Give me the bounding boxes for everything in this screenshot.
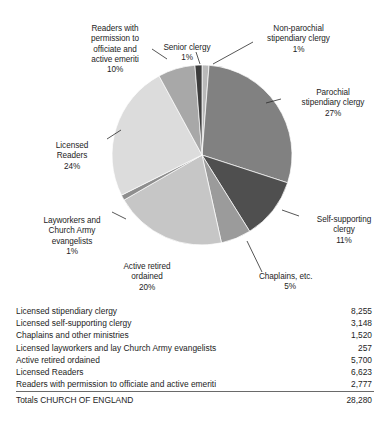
- pie-label-non-parochial: Non-parochial stipendiary clergy 1%: [251, 14, 346, 65]
- table-cell-value: 1,520: [331, 329, 374, 341]
- table-cell-value: 257: [331, 342, 374, 354]
- pie-label-layworkers-pct: 1%: [20, 247, 124, 257]
- pie-label-self-supporting: Self-supporting clergy 11%: [300, 205, 388, 256]
- pie-label-layworkers-name: Layworkers and Church Army evangelists: [43, 216, 100, 245]
- pie-label-licensed-readers-name: Licensed Readers: [56, 141, 88, 160]
- table-cell-label: Licensed self-supporting clergy: [16, 317, 331, 329]
- pie-label-non-parochial-pct: 1%: [251, 45, 346, 55]
- table-row: Licensed layworkers and lay Church Army …: [16, 342, 374, 354]
- table-totals-row: Totals CHURCH OF ENGLAND28,280: [16, 392, 374, 407]
- pie-label-parochial: Parochial stipendiary clergy 27%: [283, 78, 383, 129]
- table-row: Licensed Readers6,623: [16, 366, 374, 378]
- table-cell-value: 5,700: [331, 354, 374, 366]
- pie-label-readers-permission: Readers with permission to officiate and…: [72, 14, 158, 85]
- table-row: Licensed stipendiary clergy8,255: [16, 305, 374, 317]
- table-cell-label: Readers with permission to officiate and…: [16, 378, 331, 392]
- leader-line-self-supporting: [282, 210, 299, 216]
- pie-label-active-retired-name: Active retired ordained: [123, 262, 170, 281]
- pie-label-readers-permission-pct: 10%: [72, 65, 158, 75]
- pie-label-parochial-name: Parochial stipendiary clergy: [302, 88, 365, 107]
- data-table-body: Licensed stipendiary clergy8,255Licensed…: [16, 305, 374, 406]
- table-row: Readers with permission to officiate and…: [16, 378, 374, 392]
- pie-label-chaplains-pct: 5%: [259, 282, 321, 292]
- table-cell-label: Licensed stipendiary clergy: [16, 305, 331, 317]
- pie-label-senior-clergy-pct: 1%: [150, 53, 224, 63]
- table-row: Active retired ordained5,700: [16, 354, 374, 366]
- pie-label-readers-permission-name: Readers with permission to officiate and…: [91, 24, 139, 64]
- pie-label-licensed-readers-pct: 24%: [35, 162, 109, 172]
- pie-label-chaplains: Chaplains, etc. 5%: [259, 262, 349, 303]
- pie-label-active-retired-pct: 20%: [104, 283, 190, 293]
- table-cell-label: Active retired ordained: [16, 354, 331, 366]
- table-row: Licensed self-supporting clergy3,148: [16, 317, 374, 329]
- pie-label-senior-clergy-name: Senior clergy: [163, 43, 210, 52]
- table-cell-value: 8,255: [331, 305, 374, 317]
- pie-slice-group: [112, 65, 292, 245]
- table-cell-value: 6,623: [331, 366, 374, 378]
- pie-label-layworkers: Layworkers and Church Army evangelists 1…: [20, 206, 124, 267]
- pie-label-licensed-readers: Licensed Readers 24%: [35, 131, 109, 182]
- table-cell-label: Licensed Readers: [16, 366, 331, 378]
- pie-label-self-supporting-pct: 11%: [300, 236, 388, 246]
- table-cell-value: 2,777: [331, 378, 374, 392]
- pie-label-non-parochial-name: Non-parochial stipendiary clergy: [267, 24, 330, 43]
- pie-chart-figure: Readers with permission to officiate and…: [0, 0, 390, 298]
- pie-label-self-supporting-name: Self-supporting clergy: [317, 215, 371, 234]
- table-cell-value: 3,148: [331, 317, 374, 329]
- table-totals-value: 28,280: [331, 392, 374, 407]
- data-table: Licensed stipendiary clergy8,255Licensed…: [16, 305, 374, 406]
- table-cell-label: Licensed layworkers and lay Church Army …: [16, 342, 331, 354]
- table-totals-label: Totals CHURCH OF ENGLAND: [16, 392, 331, 407]
- table-row: Chaplains and other ministries1,520: [16, 329, 374, 341]
- pie-label-chaplains-name: Chaplains, etc.: [259, 272, 312, 281]
- pie-label-parochial-pct: 27%: [283, 109, 383, 119]
- pie-label-senior-clergy: Senior clergy 1%: [150, 33, 224, 74]
- table-cell-label: Chaplains and other ministries: [16, 329, 331, 341]
